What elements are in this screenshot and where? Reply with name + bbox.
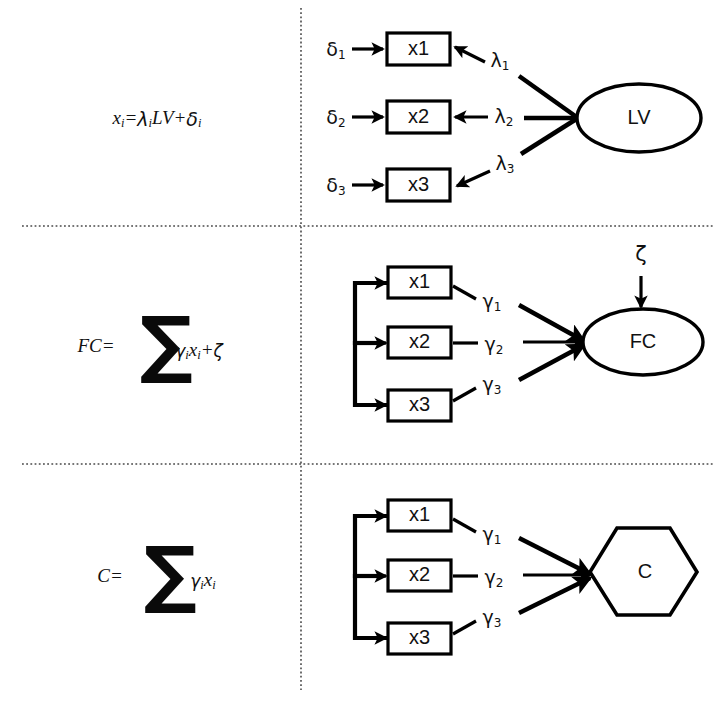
path-gamma1-to-fc [519,305,584,341]
formula-plus: + [174,107,187,128]
formula-c-sigma: ∑ [143,530,196,616]
error-term-delta2: δ2 [326,106,345,130]
diagram-svg: xi=λiLV+δi δ1 x1 λ1 δ2 [0,0,727,707]
path-lv-to-lambda1 [519,76,578,118]
panel-formative-fc: FC= ∑ γixi+ζ x1 γ1 [76,242,703,421]
formula-error-sub: i [198,116,202,130]
weight-gamma3-c: γ3 [483,606,502,630]
weight-gamma1-fc: γ1 [483,290,502,314]
indicator-x3-c: x3 γ3 [388,606,501,655]
path-gamma3-to-c [519,578,590,613]
weight-gamma2-fc: γ2 [485,333,504,357]
formula-c: C= ∑ γixi [97,530,216,616]
indicator-x2-c: x2 γ2 [388,560,503,591]
formula-c-rhs: γixi [190,569,216,592]
indicator-x2-reflective: δ2 x2 λ2 [326,101,513,133]
label-fc: FC [630,330,657,352]
weight-gamma1-c: γ1 [483,523,502,547]
indicator-x3-fc: x3 γ3 [388,373,501,422]
path-gamma1-to-c [519,538,590,574]
loading-lambda3: λ3 [496,152,515,176]
formula-eq: = [124,107,137,128]
formula-reflective: xi=λiLV+δi [112,107,202,130]
error-term-delta3: δ3 [326,174,345,198]
indicator-x2-fc: x2 γ2 [388,327,503,358]
formula-coef: λ [136,108,148,130]
label-x1-c: x1 [409,503,430,525]
path-x1-weight-fc [453,286,476,299]
formula-error: δ [186,108,198,130]
label-c: C [638,560,652,582]
path-x3-weight-c [453,621,476,634]
label-x3-reflective: x3 [408,173,429,195]
path-lv-to-lambda3 [521,118,578,154]
disturbance-zeta-fc: ζ [635,242,646,266]
indicator-x1-reflective: δ1 x1 λ1 [326,33,509,73]
formula-c-lhs: C= [97,565,123,586]
label-x2-fc: x2 [409,330,430,352]
path-gamma3-to-fc [519,345,584,380]
panel-composite-c: C= ∑ γixi x1 γ1 [97,500,697,654]
loading-lambda1: λ1 [491,49,510,73]
formula-construct: LV [151,107,176,128]
formula-fc-lhs: FC= [76,335,114,356]
error-term-delta1: δ1 [326,38,345,62]
diagram-canvas: xi=λiLV+δi δ1 x1 λ1 δ2 [0,0,727,707]
label-x1-reflective: x1 [408,37,429,59]
formula-fc: FC= ∑ γixi+ζ [76,300,224,386]
arrow-lambda1-to-x1 [455,47,485,62]
arrow-lambda3-to-x3 [457,171,490,186]
loading-lambda2: λ2 [495,105,514,129]
label-x2-c: x2 [409,563,430,585]
panel-reflective: xi=λiLV+δi δ1 x1 λ1 δ2 [112,33,701,201]
formula-reflective-text: xi=λiLV+δi [112,107,202,130]
path-x1-weight-c [453,519,476,532]
indicator-x1-c: x1 γ1 [388,500,501,547]
indicator-x3-reflective: δ3 x3 λ3 [326,152,514,202]
indicator-x1-fc: x1 γ1 [388,267,501,314]
label-lv: LV [628,106,652,128]
label-x3-fc: x3 [409,393,430,415]
label-x3-c: x3 [409,626,430,648]
formula-fc-rhs: γixi+ζ [175,339,224,362]
path-x3-weight-fc [453,388,476,401]
weight-gamma2-c: γ2 [485,566,504,590]
label-x1-fc: x1 [409,270,430,292]
weight-gamma3-fc: γ3 [483,373,502,397]
label-x2-reflective: x2 [408,105,429,127]
